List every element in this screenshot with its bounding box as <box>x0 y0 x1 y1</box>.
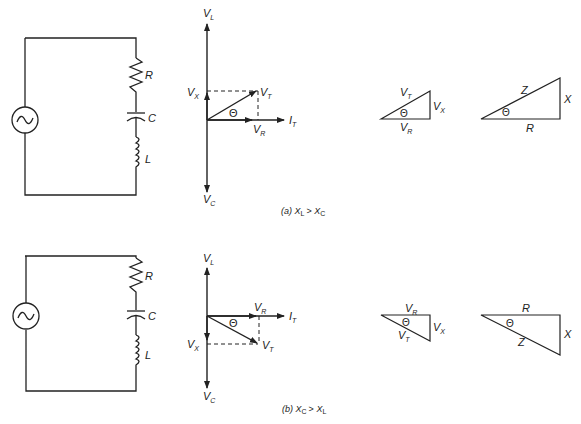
tri-a-theta: Θ <box>400 108 408 119</box>
label-it: IT <box>289 114 297 128</box>
tri-a-vt: VT <box>400 86 412 100</box>
circuit-b <box>13 256 145 391</box>
label-it: IT <box>289 310 297 324</box>
circuit-a <box>12 38 145 195</box>
label-theta: Θ <box>229 317 238 329</box>
label-vt: VT <box>262 339 274 353</box>
tri-a-theta2: Θ <box>502 107 510 118</box>
tri-b-vr: VR <box>405 302 417 316</box>
caption-a: (a) XL> XC <box>281 206 325 217</box>
tri-a-r: R <box>526 122 534 134</box>
label-c: C <box>148 310 156 322</box>
label-l: L <box>145 349 151 361</box>
inductor-icon <box>26 330 139 391</box>
label-vc: VC <box>203 390 216 404</box>
label-r: R <box>145 270 153 282</box>
label-vl: VL <box>203 7 214 21</box>
tri-b-theta2: Θ <box>506 318 514 329</box>
label-vx: VX <box>187 338 199 352</box>
label-vc: VC <box>203 193 216 207</box>
tri-b-theta: Θ <box>402 317 410 328</box>
tri-b-vt: VT <box>398 329 410 343</box>
tri-b-vx: VX <box>433 321 445 335</box>
label-l: L <box>145 153 151 165</box>
label-vr: VR <box>254 301 266 315</box>
tri-b-z: Z <box>517 336 526 348</box>
tri-a-x: X <box>563 93 572 105</box>
tri-a-vr: VR <box>400 121 412 135</box>
tri-b-x: X <box>563 328 572 340</box>
tri-b-r: R <box>522 302 530 314</box>
caption-b: (b) XC> XL <box>282 404 326 415</box>
label-vt: VT <box>260 86 272 100</box>
label-vr: VR <box>253 123 265 137</box>
phasor-a <box>207 24 284 192</box>
tri-a-vx: VX <box>433 100 445 114</box>
rlc-diagram: R C L VL VX VT VR IT Θ VC (a) XL> XC VT <box>0 0 581 424</box>
label-r: R <box>145 69 153 81</box>
phasor-b <box>207 268 284 388</box>
resistor-icon <box>130 58 142 112</box>
label-c: C <box>148 112 156 124</box>
label-vl: VL <box>203 252 214 266</box>
panel-b: R C L VL VX VT VR IT Θ VC (b) XC> XL VR <box>13 252 572 415</box>
inductor-icon <box>25 133 139 195</box>
resistor-icon <box>130 258 142 310</box>
tri-a-z: Z <box>520 84 529 96</box>
panel-a: R C L VL VX VT VR IT Θ VC (a) XL> XC VT <box>12 7 572 217</box>
impedance-triangle-b <box>481 315 560 355</box>
label-theta: Θ <box>229 107 238 119</box>
label-vx: VX <box>187 86 199 100</box>
